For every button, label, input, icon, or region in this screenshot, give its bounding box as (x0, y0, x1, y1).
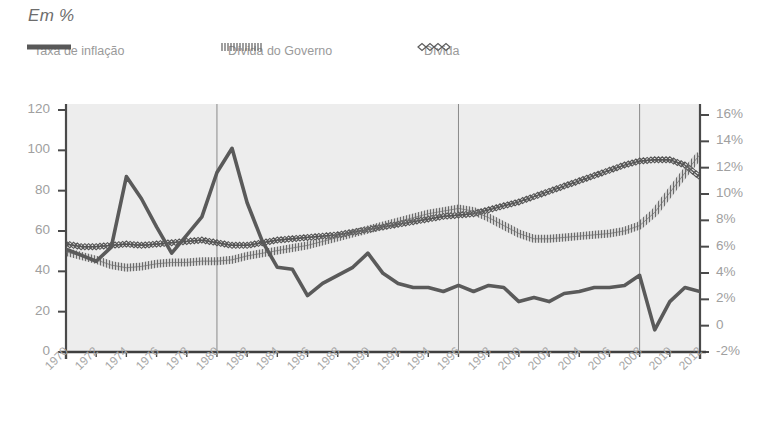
right-axis-label-4pct: 4% (716, 264, 766, 279)
left-axis-label-100: 100 (0, 141, 50, 156)
right-axis-ticks (700, 115, 709, 352)
right-axis-label-2pct: 2% (716, 290, 766, 305)
right-axis-label-8pct: 8% (716, 211, 766, 226)
right-axis-label-12pct: 12% (716, 159, 766, 174)
left-axis-label-20: 20 (0, 303, 50, 318)
left-axis-label-40: 40 (0, 262, 50, 277)
left-axis-label-60: 60 (0, 222, 50, 237)
right-axis-label-10pct: 10% (716, 185, 766, 200)
right-axis-label-14pct: 14% (716, 132, 766, 147)
right-axis-label-0: 0 (716, 317, 766, 332)
left-axis-ticks (58, 110, 66, 352)
chart-container: Em % Taxa de inflação Dívida do Gover (0, 0, 766, 425)
right-axis-label-6pct: 6% (716, 238, 766, 253)
right-axis-label-16pct: 16% (716, 106, 766, 121)
left-axis-label-120: 120 (0, 101, 50, 116)
left-axis-label-0: 0 (0, 343, 50, 358)
left-axis-label-80: 80 (0, 182, 50, 197)
right-axis-label--2pct: -2% (716, 343, 766, 358)
